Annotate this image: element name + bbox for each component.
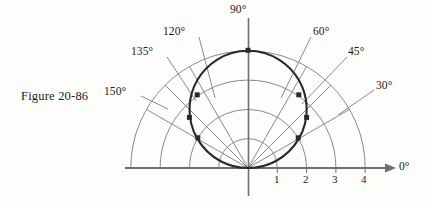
- spoke-45: [248, 85, 331, 168]
- angle-label-45: 45°: [348, 45, 364, 57]
- data-point-30: [296, 135, 301, 140]
- radial-tick-label-3: 3: [332, 173, 338, 185]
- angle-label-60: 60°: [313, 25, 329, 37]
- spoke-135: [165, 85, 248, 168]
- radial-tick-label-2: 2: [303, 173, 309, 185]
- data-point-150: [195, 135, 200, 140]
- figure-caption: Figure 20-86: [21, 89, 88, 104]
- angle-label-135: 135°: [131, 45, 153, 57]
- data-point-120: [195, 92, 200, 97]
- angle-label-120: 120°: [163, 25, 185, 37]
- spoke-60: [248, 67, 307, 169]
- angle-label-0: 0°: [399, 160, 410, 172]
- angle-label-30: 30°: [376, 79, 392, 91]
- spoke-120: [189, 67, 248, 169]
- data-point-45: [304, 115, 309, 120]
- data-point-90: [246, 48, 251, 53]
- data-point-60: [296, 92, 301, 97]
- polar-figure: Figure 20-86 90° 120° 135° 150° 60° 45° …: [0, 0, 431, 203]
- angle-label-90: 90°: [230, 3, 246, 15]
- data-point-135: [187, 115, 192, 120]
- leader-30: [338, 90, 374, 115]
- leader-45: [302, 57, 347, 104]
- axis-arrowhead-icon: [385, 164, 396, 173]
- radial-tick-label-1: 1: [274, 173, 280, 185]
- angle-label-150: 150°: [104, 85, 126, 97]
- radial-tick-label-4: 4: [361, 173, 367, 185]
